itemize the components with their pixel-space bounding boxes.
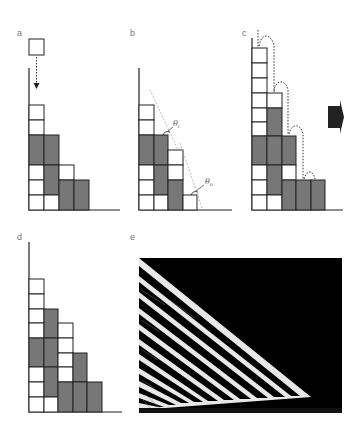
panel-e: e: [130, 232, 342, 413]
sandpile-figure: a b: [0, 0, 360, 434]
drop-arrow-icon: [34, 57, 40, 89]
next-step-arrow-icon: [328, 100, 344, 134]
panel-b: b θi: [130, 28, 232, 210]
panel-label-b: b: [130, 28, 135, 38]
pile-cells: [29, 105, 89, 210]
svg-text:θi: θi: [173, 119, 180, 129]
angle-theta-o: θo: [191, 177, 213, 195]
pile-cells: [29, 279, 102, 412]
panel-d: d: [17, 232, 122, 412]
panel-c: c: [242, 28, 344, 210]
svg-text:θo: θo: [205, 177, 213, 187]
panel-label-d: d: [17, 232, 22, 242]
pile-cells: [139, 105, 197, 210]
panel-label-a: a: [17, 28, 22, 38]
pile-cells: [252, 48, 325, 210]
angle-theta-i: θi: [163, 119, 180, 135]
panel-a: a: [17, 28, 120, 210]
simulation-image: [139, 258, 342, 413]
panel-label-c: c: [242, 28, 247, 38]
falling-block: [29, 39, 44, 55]
panel-label-e: e: [130, 232, 135, 242]
